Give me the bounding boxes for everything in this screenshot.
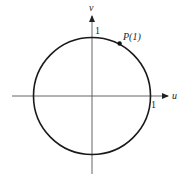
u-axis-label: u — [172, 90, 177, 101]
unit-circle-diagram: v u 1 1 P(1) — [0, 0, 184, 182]
y-tick-label: 1 — [95, 25, 100, 36]
v-axis-label: v — [89, 2, 94, 13]
point-p1-marker — [117, 41, 121, 45]
x-tick-label: 1 — [151, 99, 156, 110]
point-p1-label: P(1) — [122, 31, 141, 43]
